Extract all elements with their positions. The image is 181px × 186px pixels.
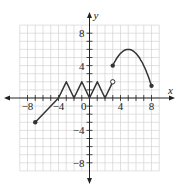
y-axis-label: y (93, 9, 99, 21)
x-tick-label: 4 (118, 100, 124, 112)
y-axis-up-arrow-icon (87, 12, 92, 18)
x-axis-label: x (167, 84, 173, 96)
y-tick-label: −4 (73, 124, 85, 136)
closed-dot-icon (33, 120, 37, 124)
closed-dot-icon (111, 63, 115, 67)
function-graph: xy −8−448084−4−8 (0, 0, 181, 186)
y-tick-label: −8 (73, 157, 85, 169)
y-tick-label: 4 (79, 60, 85, 72)
open-dot-icon (111, 80, 115, 84)
x-axis-right-arrow-icon (169, 96, 175, 101)
x-tick-label: 8 (149, 100, 155, 112)
closed-dot-icon (149, 84, 153, 88)
segment-3-parabola (113, 49, 152, 85)
origin-label: 0 (81, 100, 87, 112)
y-tick-label: 8 (79, 27, 85, 39)
x-tick-label: −8 (22, 100, 34, 112)
x-axis-left-arrow-icon (4, 96, 10, 101)
endpoint-markers (33, 63, 154, 124)
y-axis-down-arrow-icon (87, 178, 92, 184)
